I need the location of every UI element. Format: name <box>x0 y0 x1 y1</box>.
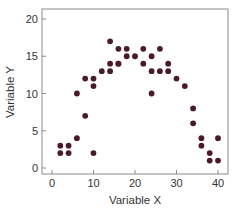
data-point <box>124 53 130 59</box>
data-point <box>99 68 105 74</box>
data-point <box>91 150 97 156</box>
data-point <box>207 150 213 156</box>
data-point <box>207 158 213 164</box>
data-point <box>74 91 80 97</box>
data-point <box>174 76 180 82</box>
data-point <box>107 38 113 44</box>
x-axis-ticks: 010203040 <box>49 170 224 189</box>
data-point <box>116 46 122 52</box>
x-tick-label: 20 <box>129 177 141 189</box>
data-point <box>190 120 196 126</box>
data-point <box>124 46 130 52</box>
y-tick-label: 20 <box>26 13 38 25</box>
data-point <box>91 76 97 82</box>
data-point <box>66 143 72 149</box>
scatter-chart: 05101520 010203040 Variable X Variable Y <box>0 0 240 212</box>
data-point <box>132 53 138 59</box>
x-tick-label: 40 <box>212 177 224 189</box>
data-point <box>107 61 113 67</box>
data-point <box>91 83 97 89</box>
data-point <box>190 106 196 112</box>
data-point <box>107 68 113 74</box>
data-point <box>215 135 221 141</box>
data-point <box>57 143 63 149</box>
data-point <box>116 61 122 67</box>
data-point <box>82 113 88 119</box>
data-point <box>82 76 88 82</box>
data-point <box>149 53 155 59</box>
data-point <box>140 61 146 67</box>
data-point <box>149 91 155 97</box>
x-tick-label: 30 <box>170 177 182 189</box>
x-axis-title: Variable X <box>109 194 162 206</box>
plot-frame <box>42 9 228 174</box>
data-point <box>66 150 72 156</box>
data-point <box>149 68 155 74</box>
y-tick-label: 15 <box>26 50 38 62</box>
y-axis-ticks: 05101520 <box>26 13 46 174</box>
data-point <box>157 46 163 52</box>
data-point <box>157 68 163 74</box>
x-tick-label: 10 <box>87 177 99 189</box>
y-tick-label: 0 <box>32 162 38 174</box>
data-point <box>199 135 205 141</box>
data-points <box>57 38 221 163</box>
data-point <box>182 83 188 89</box>
data-point <box>165 68 171 74</box>
data-point <box>57 150 63 156</box>
data-point <box>199 143 205 149</box>
data-point <box>215 158 221 164</box>
x-tick-label: 0 <box>49 177 55 189</box>
data-point <box>140 46 146 52</box>
data-point <box>165 61 171 67</box>
y-tick-label: 10 <box>26 88 38 100</box>
y-tick-label: 5 <box>32 125 38 137</box>
data-point <box>74 135 80 141</box>
y-axis-title: Variable Y <box>4 66 16 118</box>
